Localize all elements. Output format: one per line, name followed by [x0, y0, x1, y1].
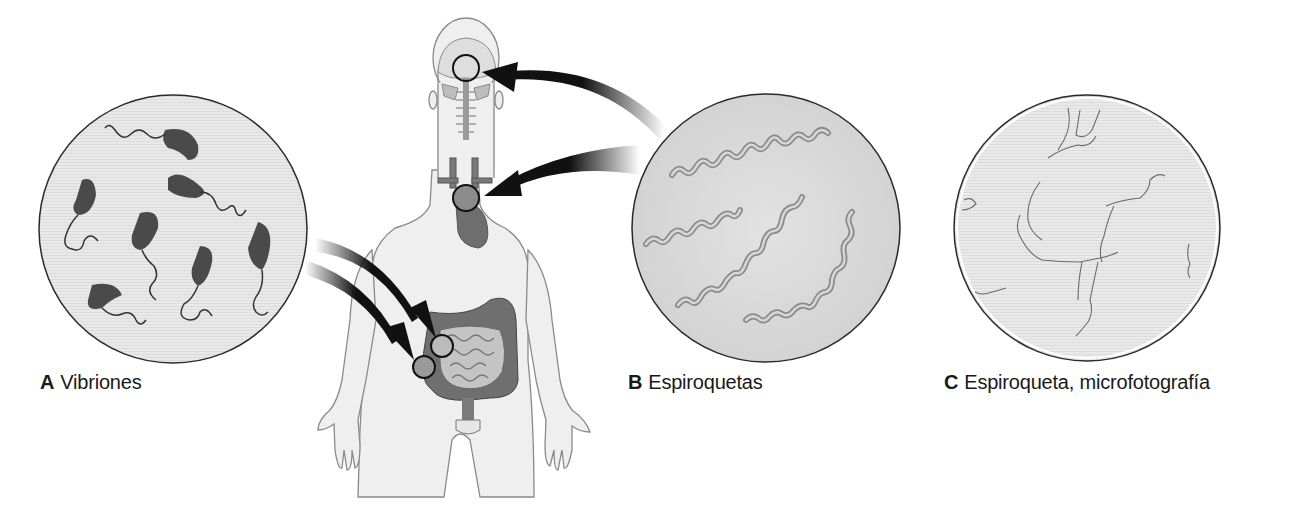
diagram-canvas — [0, 0, 1297, 516]
large-intestine-infection-marker — [413, 356, 435, 378]
heart-infection-marker — [453, 185, 479, 211]
diagram-figure: AVibriones BEspiroquetas CEspiroqueta, m… — [0, 0, 1297, 516]
panel-caption-b: Espiroquetas — [648, 371, 762, 393]
panel-label-a: AVibriones — [40, 371, 141, 394]
panel-caption-c: Espiroqueta, microfotografía — [964, 371, 1210, 393]
panel-label-c: CEspiroqueta, microfotografía — [944, 371, 1210, 394]
panel-letter-a: A — [40, 371, 54, 393]
panel-letter-b: B — [628, 371, 642, 393]
spirochete-circle — [632, 94, 900, 362]
small-intestine-infection-marker — [431, 335, 453, 357]
vibrio-circle — [39, 95, 307, 363]
micrograph-circle — [954, 95, 1220, 361]
panel-label-b: BEspiroquetas — [628, 371, 763, 394]
panel-caption-a: Vibriones — [60, 371, 141, 393]
arrows-from-spirochetes — [482, 62, 665, 196]
panel-letter-c: C — [944, 371, 958, 393]
